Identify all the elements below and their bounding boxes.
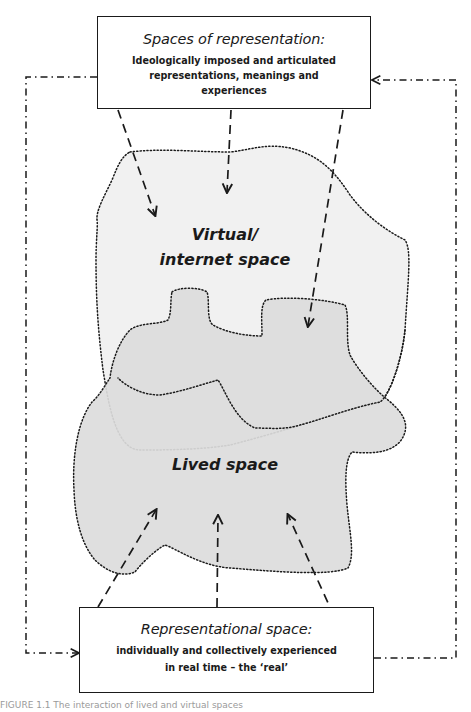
description-line: experiences (98, 83, 370, 98)
description-line: in real time – the ‘real’ (80, 659, 373, 676)
label-line: Virtual/ (150, 222, 300, 247)
description-line: representations, meanings and (98, 68, 370, 83)
left-feedback-loop (26, 77, 97, 653)
representational-space-title: Representational space: (80, 620, 373, 638)
figure-caption: FIGURE 1.1 The interaction of lived and … (0, 700, 471, 712)
label-line: Lived space (150, 452, 300, 477)
representational-space-description: individually and collectively experience… (80, 642, 373, 676)
bottom-arrow-center (217, 516, 218, 607)
lived-space-label: Lived space (150, 452, 300, 477)
spaces-of-representation-description: Ideologically imposed and articulated re… (98, 53, 370, 98)
representational-space-box: Representational space: individually and… (79, 607, 374, 693)
description-line: Ideologically imposed and articulated (98, 53, 370, 68)
label-line: internet space (150, 247, 300, 272)
spaces-of-representation-box: Spaces of representation: Ideologically … (97, 16, 371, 109)
description-line: individually and collectively experience… (80, 642, 373, 659)
virtual-space-label: Virtual/ internet space (150, 222, 300, 272)
spaces-of-representation-title: Spaces of representation: (98, 30, 370, 48)
